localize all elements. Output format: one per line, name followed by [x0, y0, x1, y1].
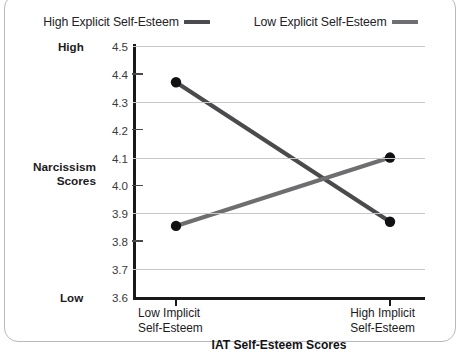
series-line	[176, 82, 390, 221]
x-tick-low-line1: Low Implicit	[138, 306, 258, 321]
y-axis-tick-label: 4.3	[100, 95, 128, 108]
y-axis-tick	[132, 129, 143, 131]
x-tick-high-line1: High Implicit	[295, 306, 415, 321]
y-axis-tick-label: 4.4	[100, 67, 128, 80]
y-axis-title-line1: Narcissism	[12, 160, 96, 174]
y-axis-title-line2: Scores	[12, 174, 96, 188]
gridline	[133, 269, 425, 270]
plot-area	[133, 46, 425, 297]
x-axis-tick-label-low: Low Implicit Self-Esteem	[138, 306, 258, 335]
gridline	[133, 213, 425, 214]
series-line	[176, 158, 390, 226]
legend-swatch-low-explicit	[392, 20, 418, 24]
data-point-marker	[171, 221, 181, 231]
y-axis-tick-label: 3.8	[100, 235, 128, 248]
y-axis-anchor-high: High	[58, 40, 84, 53]
x-tick-high-line2: Self-Esteem	[295, 321, 415, 336]
y-axis-title: Narcissism Scores	[12, 160, 96, 188]
y-axis-tick-label: 3.9	[100, 207, 128, 220]
y-axis-tick-labels: 3.63.73.83.94.04.14.24.34.44.5	[100, 46, 128, 297]
y-axis-tick-label: 3.6	[100, 291, 128, 304]
y-axis-tick	[132, 73, 143, 75]
x-axis-title: IAT Self-Esteem Scores	[133, 338, 425, 352]
narcissism-interaction-chart: High Explicit Self-Esteem Low Explicit S…	[0, 0, 461, 360]
x-axis-tick	[175, 297, 177, 306]
y-axis-tick	[132, 185, 143, 187]
gridline	[133, 102, 425, 103]
x-axis-tick	[389, 297, 391, 306]
chart-legend: High Explicit Self-Esteem Low Explicit S…	[0, 11, 461, 33]
legend-label-high-explicit: High Explicit Self-Esteem	[43, 15, 179, 29]
y-axis-anchor-low: Low	[60, 291, 83, 304]
series-layer	[133, 46, 425, 297]
y-axis-tick-label: 4.1	[100, 151, 128, 164]
x-tick-low-line2: Self-Esteem	[138, 321, 258, 336]
gridline	[133, 158, 425, 159]
legend-item-high-explicit: High Explicit Self-Esteem	[43, 15, 210, 29]
y-axis-tick-label: 4.5	[100, 40, 128, 53]
legend-label-low-explicit: Low Explicit Self-Esteem	[254, 15, 387, 29]
data-point-marker	[171, 77, 181, 87]
y-axis-tick	[132, 240, 143, 242]
y-axis-tick-label: 3.7	[100, 263, 128, 276]
y-axis-tick-label: 4.0	[100, 179, 128, 192]
y-axis-tick-label: 4.2	[100, 123, 128, 136]
x-axis-tick-label-high: High Implicit Self-Esteem	[295, 306, 415, 335]
legend-item-low-explicit: Low Explicit Self-Esteem	[254, 15, 418, 29]
gridline	[133, 46, 425, 47]
data-point-marker	[385, 217, 395, 227]
legend-swatch-high-explicit	[184, 20, 210, 24]
x-axis-line	[133, 297, 425, 300]
